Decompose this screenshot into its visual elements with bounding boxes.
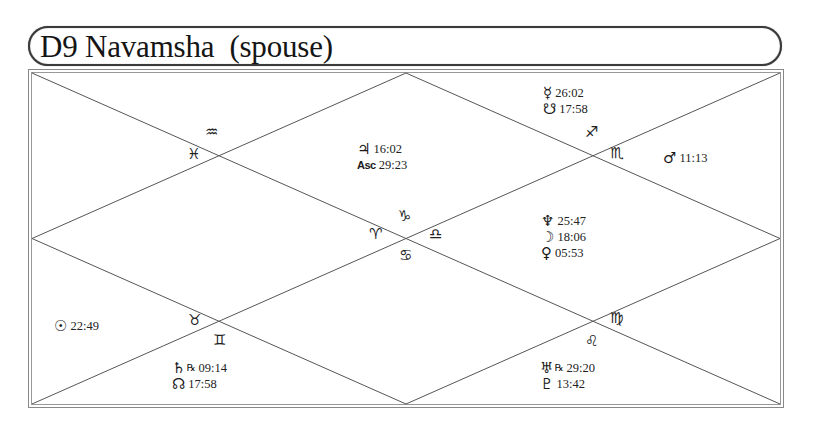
planet-pluto: ♇ 13:42 xyxy=(540,376,595,392)
sign-cancer-icon: ♋ xyxy=(399,248,412,263)
house-6-planets: ♅ ℞ 29:20 ♇ 13:42 xyxy=(540,360,595,392)
saturn-degree: 09:14 xyxy=(198,360,226,376)
retrograde-icon: ℞ xyxy=(186,360,195,376)
uranus-degree: 29:20 xyxy=(566,360,594,376)
moon-degree: 18:06 xyxy=(557,229,585,245)
rahu-icon: ☊ xyxy=(172,376,185,392)
planet-neptune: ♆ 25:47 xyxy=(541,213,586,229)
ketu-degree: 17:58 xyxy=(559,101,587,117)
house-9-planets: ☉ 22:49 xyxy=(54,318,99,334)
moon-icon: ☽ xyxy=(541,229,554,245)
planet-uranus: ♅ ℞ 29:20 xyxy=(540,360,595,376)
neptune-degree: 25:47 xyxy=(557,213,585,229)
saturn-icon: ♄ xyxy=(172,360,185,376)
house-1-planets: ♃ 16:02 Asc 29:23 xyxy=(357,141,407,173)
sign-virgo-icon: ♍ xyxy=(610,311,623,326)
ascendant-degree: 29:23 xyxy=(379,157,407,173)
planet-mars: ♂ 11:13 xyxy=(663,150,707,166)
mercury-icon: ☿ xyxy=(543,85,552,101)
planet-rahu: ☊ 17:58 xyxy=(172,376,227,392)
mars-icon: ♂ xyxy=(663,150,676,166)
venus-degree: 05:53 xyxy=(555,245,583,261)
ketu-icon: ☋ xyxy=(543,101,556,117)
planet-sun: ☉ 22:49 xyxy=(54,318,99,334)
planet-ascendant: Asc 29:23 xyxy=(357,157,407,173)
sign-taurus-icon: ♉ xyxy=(188,313,201,328)
neptune-icon: ♆ xyxy=(541,213,554,229)
sign-leo-icon: ♌ xyxy=(585,334,598,349)
planet-saturn: ♄ ℞ 09:14 xyxy=(172,360,227,376)
sign-sagittarius-icon: ♐ xyxy=(585,125,598,140)
pluto-icon: ♇ xyxy=(540,376,553,392)
sign-pisces-icon: ♓ xyxy=(187,147,200,162)
house-2-planets: ☿ 26:02 ☋ 17:58 xyxy=(543,85,588,117)
planet-venus: ♀ 05:53 xyxy=(541,245,586,261)
sign-gemini-icon: ♊ xyxy=(213,333,226,348)
sun-icon: ☉ xyxy=(54,318,67,334)
sign-aquarius-icon: ♒ xyxy=(205,125,218,140)
planet-mercury: ☿ 26:02 xyxy=(543,85,588,101)
sun-degree: 22:49 xyxy=(70,318,98,334)
sign-capricorn-icon: ♑ xyxy=(398,209,411,224)
mercury-degree: 26:02 xyxy=(555,85,583,101)
mars-degree: 11:13 xyxy=(679,150,707,166)
venus-icon: ♀ xyxy=(541,245,552,261)
planet-moon: ☽ 18:06 xyxy=(541,229,586,245)
planet-jupiter: ♃ 16:02 xyxy=(357,141,407,157)
sign-scorpio-icon: ♏ xyxy=(610,146,623,161)
ascendant-icon: Asc xyxy=(357,157,376,173)
sign-libra-icon: ♎ xyxy=(429,227,442,242)
house-4-planets: ♆ 25:47 ☽ 18:06 ♀ 05:53 xyxy=(541,213,586,261)
house-8-planets: ♄ ℞ 09:14 ☊ 17:58 xyxy=(172,360,227,392)
uranus-icon: ♅ xyxy=(540,360,553,376)
house-3-planets: ♂ 11:13 xyxy=(663,150,707,166)
sign-aries-icon: ♈ xyxy=(369,227,382,242)
rahu-degree: 17:58 xyxy=(188,376,216,392)
jupiter-icon: ♃ xyxy=(357,141,370,157)
pluto-degree: 13:42 xyxy=(556,376,584,392)
retrograde-icon: ℞ xyxy=(554,360,563,376)
planet-ketu: ☋ 17:58 xyxy=(543,101,588,117)
jupiter-degree: 16:02 xyxy=(373,141,401,157)
